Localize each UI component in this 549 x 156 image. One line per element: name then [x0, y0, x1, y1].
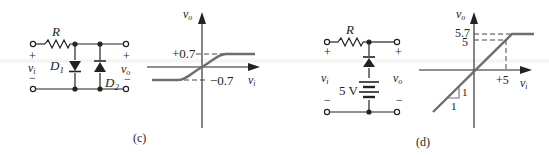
caption-c: (c): [133, 131, 146, 145]
label-r-d: R: [345, 22, 354, 37]
terminal-output-top: [123, 41, 128, 46]
terminal-output-bottom-d: [394, 109, 399, 114]
diode-icon-d: [363, 56, 375, 68]
output-minus-d: −: [396, 93, 403, 107]
terminal-output-bottom: [123, 86, 128, 91]
y-axis-label-c: vo: [183, 7, 192, 22]
x-arrow-icon: [248, 63, 260, 71]
label-d2: D2: [104, 75, 119, 92]
battery-icon: [358, 78, 380, 100]
x-axis-label-d: vi: [520, 76, 528, 91]
slope-run: 1: [451, 100, 457, 112]
terminal-input-bottom: [30, 86, 35, 91]
label-d1: D1: [49, 58, 64, 75]
resistor-icon: [45, 40, 70, 48]
label-r-c: R: [51, 24, 60, 39]
y-arrow-icon: [198, 12, 206, 24]
slope-rise: 1: [462, 86, 468, 98]
input-label-d: vi: [321, 71, 329, 86]
battery-label: 5 V: [339, 83, 359, 98]
output-plus-c: +: [123, 49, 130, 63]
diode-d2-icon: [94, 60, 106, 73]
input-label-c: vi: [28, 61, 36, 76]
terminal-input-bottom-d: [324, 109, 329, 114]
level-upper-c: +0.7: [172, 46, 196, 61]
x-tick-d: +5: [496, 73, 509, 87]
plot-d: 1 1 5.7 5 +5 vo vi: [419, 7, 534, 128]
output-plus-d: +: [395, 45, 402, 59]
ref-level-d: 5: [462, 35, 468, 49]
x-axis-label-c: vi: [248, 73, 256, 88]
circuit-d: [324, 38, 399, 115]
resistor-icon-d: [338, 38, 363, 46]
input-plus-d: +: [324, 45, 331, 59]
level-lower-c: −0.7: [210, 73, 234, 88]
x-arrow-icon-d: [520, 66, 532, 74]
diode-d1-icon: [69, 60, 81, 73]
terminal-input-top-d: [324, 39, 329, 44]
terminal-output-top-d: [394, 39, 399, 44]
y-axis-label-d: vo: [456, 7, 465, 22]
terminal-input-top: [30, 41, 35, 46]
input-minus-d: −: [324, 93, 331, 107]
plot-c: +0.7 −0.7 vo vi: [147, 7, 260, 128]
y-arrow-icon-d: [470, 12, 478, 24]
caption-d: (d): [416, 135, 430, 149]
diagram-canvas: R D1 D2 + − vi + − vo +0.7 −0.7 vo vi (c…: [0, 0, 549, 156]
transfer-curve-d: [433, 34, 534, 112]
output-label-d: vo: [393, 71, 402, 86]
output-label-c: vo: [121, 62, 130, 77]
